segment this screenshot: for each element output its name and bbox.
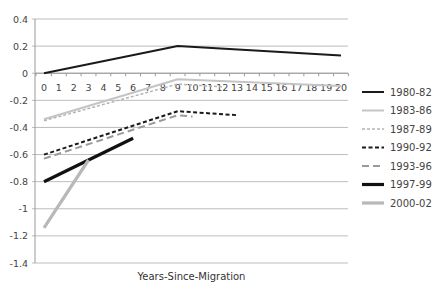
x-tick-label: 20 [335,82,347,93]
legend-label: 1983-86 [390,105,432,116]
x-tick-label: 2 [71,82,77,93]
y-tick-label: -0.4 [9,122,28,133]
series-line-1980-82 [44,46,341,73]
y-tick-label: -0.2 [9,95,28,106]
y-tick-label: -1 [19,203,28,214]
y-tick-label: -1.2 [9,230,28,241]
x-tick-label: 14 [246,82,258,93]
x-tick-label: 5 [115,82,121,93]
legend: 1980-821983-861987-891990-921993-961997-… [362,87,432,209]
x-tick-label: 0 [41,82,47,93]
x-tick-label: 1 [56,82,62,93]
y-tick-label: 0.4 [13,14,28,25]
legend-label: 1990-92 [390,142,432,153]
y-tick-label: -0.8 [9,176,28,187]
series-line-1990-92 [44,111,237,154]
y-tick-label: 0.2 [13,41,28,52]
x-tick-label: 4 [100,82,106,93]
legend-label: 1980-82 [390,87,432,98]
x-axis-at-zero [35,73,348,76]
line-chart: 0.40.20-0.2-0.4-0.6-0.8-1-1.2-1.4 012345… [0,0,435,295]
x-tick-label: 3 [86,82,92,93]
x-tick-label: 10 [186,82,198,93]
x-tick-label: 11 [201,82,213,93]
x-tick-label: 19 [320,82,332,93]
y-tick-label: -1.4 [9,258,28,269]
legend-label: 1987-89 [390,124,432,135]
series-line-1993-96 [44,115,193,158]
gridlines [32,19,348,263]
y-axis-tick-labels: 0.40.20-0.2-0.4-0.6-0.8-1-1.2-1.4 [9,14,28,269]
x-axis-title: Years-Since-Migration [137,271,246,282]
legend-label: 2000-02 [390,198,432,209]
legend-label: 1997-99 [390,179,432,190]
y-tick-label: 0 [22,68,28,79]
x-tick-label: 13 [231,82,243,93]
legend-label: 1993-96 [390,161,432,172]
y-tick-label: -0.6 [9,149,28,160]
x-tick-label: 12 [216,82,228,93]
